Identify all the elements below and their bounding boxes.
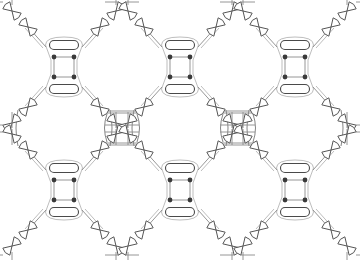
r1c1-arm-2-bowtie-outer-b — [12, 114, 21, 123]
r1c1-arm-0-bowtie-inner-a — [19, 18, 28, 27]
r2c3-node-1 — [303, 178, 308, 183]
r2c2-arm-3-bowtie-inner-b — [207, 221, 216, 230]
r1c3-arm-3-bowtie-inner-b — [322, 98, 331, 107]
r2c2-arm-0-bowtie-outer-b — [128, 134, 137, 143]
r1c2-arm-2-bowtie-inner-a — [135, 107, 144, 116]
r2c3-arm-0-bowtie-outer-b — [243, 134, 252, 143]
r1c2-arm-1-bowtie-inner-b — [207, 27, 216, 36]
r2c2-arm-2-bowtie-inner-b — [144, 221, 153, 230]
r2c1-plaquette — [54, 180, 74, 200]
r1c2-plaquette-outer — [167, 60, 193, 74]
r2c1-arm-3-bowtie-inner-a — [100, 230, 109, 239]
r1c3-node-0 — [283, 55, 288, 60]
r1c2-node-2 — [168, 75, 173, 80]
r2c3-arm-0-bowtie-inner-a — [250, 141, 259, 150]
r1c1-node-1 — [72, 55, 77, 60]
r2c3-arm-2-bowtie-outer-b — [243, 237, 252, 246]
r1c3-node-3 — [303, 75, 308, 80]
r2c1-arm-2-bowtie-outer-b — [12, 237, 21, 246]
r1c1-arm-0-bowtie-outer-b — [12, 11, 21, 20]
r2c2-arm-1-bowtie-outer-b — [223, 134, 232, 143]
r2c1-arm-3-bowtie-inner-b — [91, 221, 100, 230]
r1c2-arm-2-bowtie-inner-b — [144, 98, 153, 107]
r1c2-node-0 — [168, 55, 173, 60]
r1c2-plaquette — [170, 57, 190, 77]
r1c3-arm-0-bowtie-outer-b — [243, 11, 252, 20]
r2c1-arm-0-bowtie-inner-a — [19, 141, 28, 150]
r1c2-node-1 — [188, 55, 193, 60]
r1c1-node-2 — [52, 75, 57, 80]
r1c2-arm-3-bowtie-inner-b — [207, 98, 216, 107]
r1c1-node-0 — [52, 55, 57, 60]
r1c3-arm-3-bowtie-outer-b — [338, 114, 347, 123]
r1c2-arm-3-bowtie-outer-b — [223, 114, 232, 123]
r2c2-plaquette — [170, 180, 190, 200]
r2c1-arm-0-bowtie-inner-b — [28, 150, 37, 159]
r2c1-arm-2-bowtie-outer-a — [3, 246, 12, 255]
r2c3-arm-3-bowtie-outer-b — [338, 237, 347, 246]
r1c1-arm-3-bowtie-inner-b — [91, 98, 100, 107]
r1c3-arm-1-bowtie-inner-b — [322, 27, 331, 36]
r1c2-bottom-pill — [166, 85, 195, 94]
r1c2-arm-2-bowtie-outer-b — [128, 114, 137, 123]
r1c3-arm-0-bowtie-inner-a — [250, 18, 259, 27]
r2c1-node-1 — [72, 178, 77, 183]
r2c2-arm-0-bowtie-inner-a — [135, 141, 144, 150]
r2c1-arm-0-bowtie-outer-b — [12, 134, 21, 143]
r2c2-arm-1-bowtie-inner-b — [207, 150, 216, 159]
r1c3-node-2 — [283, 75, 288, 80]
r1c3-arm-2-bowtie-inner-b — [259, 98, 268, 107]
r1c1-plaquette-outer — [51, 60, 77, 74]
r1c2-arm-1-bowtie-outer-b — [223, 11, 232, 20]
r1c2-arm-3-bowtie-inner-a — [216, 107, 225, 116]
r2c1-arm-1-bowtie-inner-a — [100, 141, 109, 150]
r2c2-arm-2-bowtie-inner-a — [135, 230, 144, 239]
r1c3-node-1 — [303, 55, 308, 60]
r2c3-node-2 — [283, 198, 288, 203]
r2c3-arm-2-bowtie-inner-a — [250, 230, 259, 239]
r1c3-top-pill — [281, 41, 310, 50]
r1c1-arm-1-bowtie-inner-a — [100, 18, 109, 27]
r2c2-arm-3-bowtie-inner-a — [216, 230, 225, 239]
r1c1-arm-2-bowtie-inner-b — [28, 98, 37, 107]
r2c3-node-0 — [283, 178, 288, 183]
r2c2-node-2 — [168, 198, 173, 203]
r2c2-node-1 — [188, 178, 193, 183]
r2c3-plaquette — [285, 180, 305, 200]
r1c2-node-3 — [188, 75, 193, 80]
r1c3-arm-2-bowtie-outer-b — [243, 114, 252, 123]
r2c2-arm-1-bowtie-inner-a — [216, 141, 225, 150]
r1c2-top-pill — [166, 41, 195, 50]
r2c3-arm-3-bowtie-inner-b — [322, 221, 331, 230]
r2c3-arm-1-bowtie-outer-b — [338, 134, 347, 143]
r1c3-arm-0-bowtie-inner-b — [259, 27, 268, 36]
r2c1-arm-1-bowtie-outer-b — [107, 134, 116, 143]
r2c3-arm-3-bowtie-outer-a — [347, 246, 356, 255]
r2c1-node-2 — [52, 198, 57, 203]
r1c3-arm-2-bowtie-inner-a — [250, 107, 259, 116]
r1c2-arm-0-bowtie-outer-b — [128, 11, 137, 20]
r2c3-bottom-pill — [281, 208, 310, 217]
r1c3-plaquette-outer — [282, 60, 308, 74]
r1c1-top-pill — [50, 41, 79, 50]
r1c3-arm-1-bowtie-outer-b — [338, 11, 347, 20]
r2c3-arm-1-bowtie-inner-a — [331, 141, 340, 150]
r2c1-node-0 — [52, 178, 57, 183]
r1c2-arm-0-bowtie-inner-a — [135, 18, 144, 27]
r2c3-top-pill — [281, 164, 310, 173]
r1c1-arm-0-bowtie-outer-a — [3, 2, 12, 11]
lattice-diagram — [0, 0, 360, 260]
r2c3-arm-2-bowtie-inner-b — [259, 221, 268, 230]
r2c2-arm-2-bowtie-outer-b — [128, 237, 137, 246]
r2c1-bottom-pill — [50, 208, 79, 217]
r2c2-node-3 — [188, 198, 193, 203]
r1c3-arm-1-bowtie-inner-a — [331, 18, 340, 27]
r1c1-arm-2-bowtie-inner-a — [19, 107, 28, 116]
r2c1-arm-1-bowtie-inner-b — [91, 150, 100, 159]
r2c1-arm-2-bowtie-inner-a — [19, 230, 28, 239]
r1c1-node-3 — [72, 75, 77, 80]
r2c2-plaquette-outer — [167, 183, 193, 197]
r1c3-plaquette — [285, 57, 305, 77]
r1c3-arm-3-bowtie-inner-a — [331, 107, 340, 116]
r2c2-node-0 — [168, 178, 173, 183]
